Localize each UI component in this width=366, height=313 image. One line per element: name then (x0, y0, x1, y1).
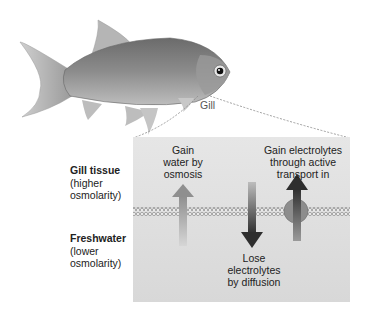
freshwater-title: Freshwater (70, 232, 126, 245)
active-transport-label: Gain electrolytes through active transpo… (258, 144, 348, 180)
water-osmosis-label: Gain water by osmosis (158, 144, 208, 180)
label-line: through active (270, 156, 336, 168)
freshwater-sub1: (lower (70, 245, 99, 257)
gill-tissue-title: Gill tissue (70, 164, 121, 177)
gill-label: Gill (200, 99, 215, 111)
label-line: osmosis (164, 168, 203, 180)
label-line: by diffusion (228, 276, 281, 288)
label-line: Lose (243, 252, 266, 264)
label-line: Gain (172, 144, 194, 156)
gill-tissue-sub2: osmolarity) (70, 189, 121, 201)
label-line: transport in (277, 168, 330, 180)
gill-tissue-sub1: (higher (70, 177, 103, 189)
gill-tissue-label: Gill tissue (higher osmolarity) (70, 164, 121, 202)
fish-illustration (20, 20, 230, 135)
label-line: Gain electrolytes (264, 144, 342, 156)
freshwater-sub2: osmolarity) (70, 257, 121, 269)
label-line: electrolytes (227, 264, 280, 276)
label-line: water by (163, 156, 203, 168)
diffusion-label: Lose electrolytes by diffusion (222, 252, 286, 288)
freshwater-label: Freshwater (lower osmolarity) (70, 232, 126, 270)
